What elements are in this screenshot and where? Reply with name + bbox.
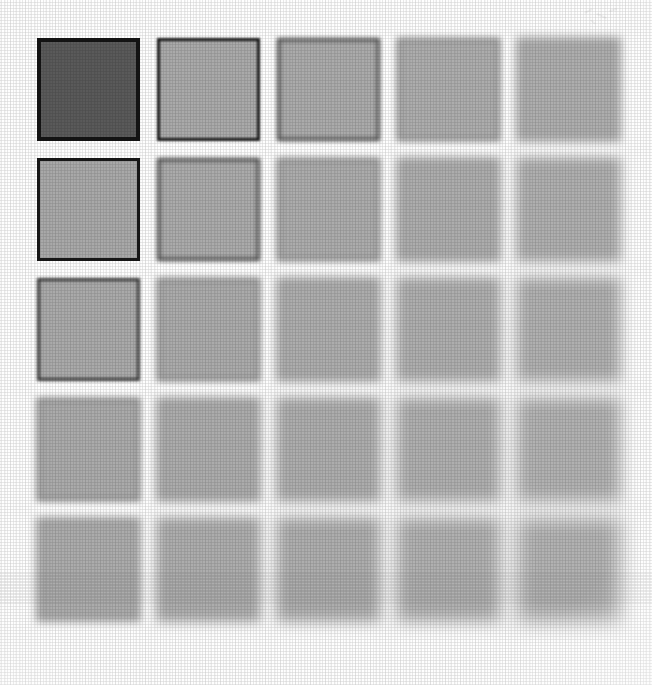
grid-square: [484, 485, 652, 654]
grid-square-plate: [37, 278, 140, 381]
grid-square-plate: [37, 38, 140, 141]
grid-square-plate: [277, 158, 380, 261]
square-grid: [0, 0, 652, 685]
grid-square: [150, 31, 267, 148]
grid-square-plate: [397, 38, 500, 141]
grid-square-plate: [517, 518, 620, 621]
grid-square: [267, 28, 390, 151]
grid-square-plate: [157, 278, 260, 381]
grid-square-plate: [397, 278, 500, 381]
grid-square-plate: [277, 38, 380, 141]
grid-square: [31, 152, 146, 267]
grid-square-plate: [517, 158, 620, 261]
grid-square-plate: [397, 158, 500, 261]
grid-square-plate: [37, 398, 140, 501]
grid-square-plate: [277, 398, 380, 501]
grid-square-plate: [157, 158, 260, 261]
grid-square: [27, 268, 150, 391]
grid-square: [33, 34, 144, 145]
grid-square-plate: [37, 158, 140, 261]
grid-square-plate: [517, 38, 620, 141]
figure-canvas: [0, 0, 652, 685]
grid-square-plate: [157, 38, 260, 141]
grid-square: [147, 148, 270, 271]
grid-square-plate: [157, 398, 260, 501]
grid-square-plate: [277, 518, 380, 621]
grid-square-plate: [517, 278, 620, 381]
grid-square-plate: [37, 518, 140, 621]
grid-square-plate: [277, 278, 380, 381]
grid-square-plate: [157, 518, 260, 621]
